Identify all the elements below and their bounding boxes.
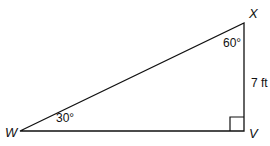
triangle-wxv: [20, 23, 244, 131]
angle-w-label: 30°: [56, 112, 74, 124]
right-angle-marker: [230, 117, 244, 131]
angle-x-label: 60°: [223, 37, 241, 49]
vertex-x-label: X: [249, 7, 258, 20]
vertex-v-label: V: [249, 127, 258, 140]
side-xv-label: 7 ft: [251, 77, 268, 89]
vertex-w-label: W: [5, 126, 17, 139]
triangle-figure: [0, 0, 270, 146]
